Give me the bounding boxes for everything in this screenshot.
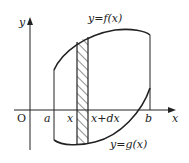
y-axis-arrow-icon — [27, 17, 33, 25]
y-axis-label: y — [19, 17, 25, 28]
area-between-curves-diagram: y x O a x x+dx b y=f(x) y=g(x) — [0, 0, 189, 163]
f-curve-label: y=f(x) — [88, 13, 122, 24]
x-plus-dx-label: x+dx — [91, 113, 120, 124]
g-curve-label: y=g(x) — [110, 139, 147, 150]
hatched-strip — [77, 30, 88, 150]
f-curve — [54, 29, 150, 70]
origin-label: O — [17, 113, 26, 124]
x-axis-label: x — [172, 113, 178, 124]
x-label: x — [67, 113, 73, 124]
a-label: a — [44, 113, 51, 124]
b-label: b — [145, 113, 152, 124]
